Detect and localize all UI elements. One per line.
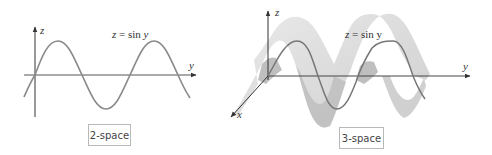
- surface-shadow-2: [382, 76, 426, 118]
- equation-var: y: [377, 28, 383, 40]
- y-axis-label-3d: y: [463, 60, 468, 72]
- equation-var: y: [144, 28, 149, 40]
- x-axis-label-3d: x: [237, 108, 242, 120]
- equation-fn: sin: [361, 28, 374, 40]
- equation-lhs: z: [112, 28, 116, 40]
- figure-canvas: [0, 0, 492, 155]
- panel-2space: [24, 27, 196, 117]
- z-axis-label-2d: z: [40, 24, 44, 36]
- caption-3space: 3-space: [339, 127, 384, 149]
- equation-label-2d: z = sin y: [112, 28, 148, 40]
- z-axis-label-3d: z: [275, 6, 279, 18]
- equation-eq: =: [352, 28, 358, 40]
- equation-lhs: z: [345, 28, 349, 40]
- y-axis-label-2d: y: [189, 59, 194, 71]
- caption-2space: 2-space: [88, 124, 131, 146]
- equation-label-3d: z = sin y: [345, 28, 382, 40]
- equation-fn: sin: [128, 28, 141, 40]
- equation-eq: =: [119, 28, 125, 40]
